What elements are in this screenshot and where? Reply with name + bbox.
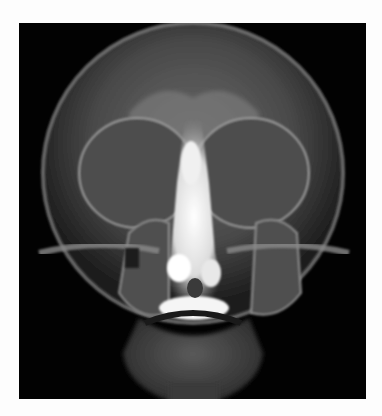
cropped-caption-text — [10, 0, 372, 8]
xray-image — [19, 23, 366, 399]
skull-xray-illustration — [19, 23, 366, 399]
